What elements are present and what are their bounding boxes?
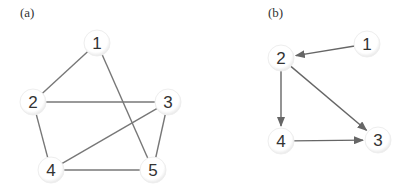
node-label: 4	[276, 132, 285, 151]
directed-graph-b: 1234	[268, 31, 391, 154]
node-3: 3	[155, 89, 181, 115]
undirected-graph-a: 12345	[20, 30, 181, 183]
node-label: 3	[373, 131, 382, 150]
edge-1-2	[41, 50, 89, 94]
node-label: 2	[28, 93, 37, 112]
edge-2-4	[36, 113, 48, 160]
node-label: 2	[276, 49, 285, 68]
edge-2-3	[289, 65, 366, 130]
node-label: 3	[163, 93, 172, 112]
node-5: 5	[140, 157, 166, 183]
node-label: 1	[362, 35, 371, 54]
node-2: 2	[268, 45, 294, 71]
edge-4-3	[292, 140, 363, 141]
node-label: 5	[148, 161, 157, 180]
node-4: 4	[38, 157, 64, 183]
node-1: 1	[84, 30, 110, 56]
node-label: 4	[46, 161, 55, 180]
edge-1-2	[296, 46, 356, 56]
graph-canvas: 12345 1234	[0, 0, 410, 191]
node-1: 1	[354, 31, 380, 57]
edge-3-5	[155, 113, 165, 160]
node-2: 2	[20, 89, 46, 115]
edge-1-5	[101, 53, 148, 160]
node-3: 3	[365, 127, 391, 153]
edge-3-4	[61, 108, 159, 165]
node-4: 4	[268, 128, 294, 154]
node-label: 1	[92, 34, 101, 53]
